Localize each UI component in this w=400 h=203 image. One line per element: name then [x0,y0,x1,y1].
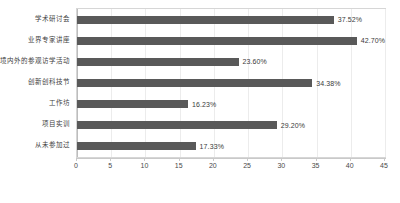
x-tick-label: 25 [243,162,251,169]
category-label: 业界专家讲座 [28,36,70,43]
x-tick-mark [76,158,77,161]
category-label: 项目实训 [42,121,70,128]
x-tick-mark [247,158,248,161]
bar-value-label: 17.33% [200,143,224,150]
bar-row: 29.20% [77,121,385,129]
x-tick-mark [179,158,180,161]
bar-row: 37.52% [77,16,385,24]
x-axis-tick-labels: 051015202530354045 [76,162,386,176]
x-tick-mark [384,158,385,161]
category-axis: 学术研讨会业界专家讲座境内外的参观访学活动创新创科技节工作坊项目实训从未参加过 [0,8,74,158]
x-tick-label: 35 [312,162,320,169]
bar-chart: 学术研讨会业界专家讲座境内外的参观访学活动创新创科技节工作坊项目实训从未参加过 … [0,0,400,203]
bar [77,142,196,150]
category-label: 创新创科技节 [28,79,70,86]
x-tick-mark [213,158,214,161]
bar-row: 42.70% [77,37,385,45]
bar-value-label: 23.60% [243,58,267,65]
gridline-45 [385,9,386,157]
bar-value-label: 42.70% [361,37,385,44]
x-tick-label: 20 [209,162,217,169]
x-tick-label: 5 [108,162,112,169]
bar-row: 34.38% [77,79,385,87]
bar-value-label: 16.23% [192,101,216,108]
bar-rows: 37.52%42.70%23.60%34.38%16.23%29.20%17.3… [77,9,385,157]
x-tick-mark [144,158,145,161]
x-axis-line [76,158,386,159]
x-tick-mark [316,158,317,161]
plot-area: 37.52%42.70%23.60%34.38%16.23%29.20%17.3… [76,8,386,158]
x-tick-label: 10 [141,162,149,169]
bar-row: 23.60% [77,58,385,66]
bar-value-label: 37.52% [338,16,362,23]
bar [77,16,334,24]
bar [77,100,188,108]
bar [77,79,312,87]
x-tick-label: 40 [346,162,354,169]
bar-row: 17.33% [77,142,385,150]
x-tick-mark [350,158,351,161]
x-tick-label: 15 [175,162,183,169]
x-tick-mark [110,158,111,161]
x-tick-label: 0 [74,162,78,169]
bar [77,121,277,129]
x-tick-label: 45 [380,162,388,169]
bar [77,58,239,66]
category-label: 从未参加过 [35,142,70,149]
bar-row: 16.23% [77,100,385,108]
bar-value-label: 29.20% [281,122,305,129]
category-label: 境内外的参观访学活动 [0,58,70,65]
bar [77,37,357,45]
x-tick-label: 30 [277,162,285,169]
bar-value-label: 34.38% [316,80,340,87]
category-label: 工作坊 [49,100,70,107]
category-label: 学术研讨会 [35,15,70,22]
x-tick-mark [281,158,282,161]
